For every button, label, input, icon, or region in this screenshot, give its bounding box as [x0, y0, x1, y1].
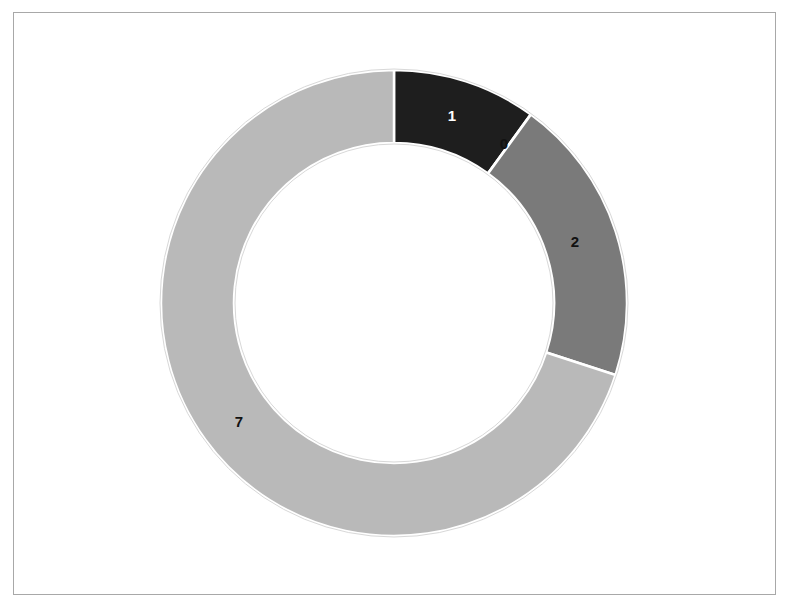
data-label-slice-2: 0	[500, 135, 508, 152]
donut-chart: 1 0 2 7	[0, 0, 787, 610]
donut-outline	[235, 144, 553, 462]
data-label-slice-3: 2	[571, 233, 579, 250]
data-label-slice-1: 1	[448, 107, 456, 124]
donut-slice-3	[488, 114, 627, 375]
data-label-slice-4: 7	[235, 413, 243, 430]
